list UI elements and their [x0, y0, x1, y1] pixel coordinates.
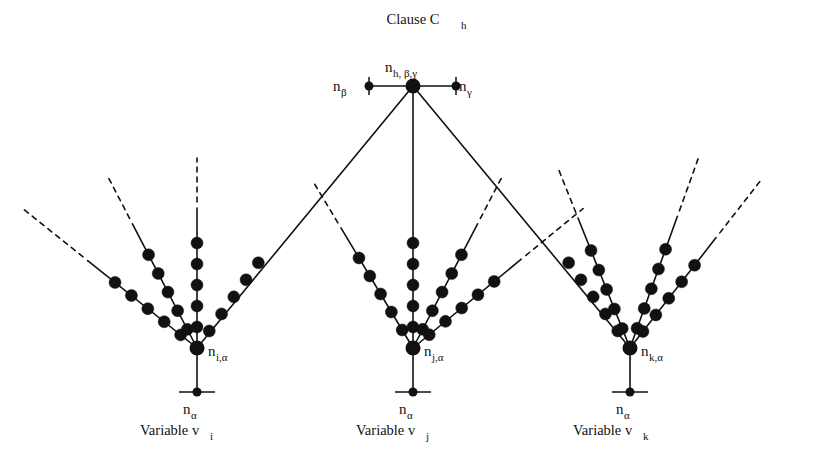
n-beta-label-subscript: β: [341, 86, 347, 98]
vj-ray-outer-right-bead: [439, 315, 451, 327]
vj-root-label: n: [424, 343, 432, 359]
vj-ray-outer-left-bead: [396, 324, 408, 336]
clause-node-label-subscript: h, β,γ: [393, 67, 417, 79]
edges-layer: [24, 77, 761, 392]
vk-base-node: [626, 388, 635, 397]
vi-ray-inner-left-bead: [143, 249, 155, 261]
vk-ray-inner-left-bead: [608, 303, 620, 315]
vk-caption: Variable v: [573, 422, 633, 438]
vk-ray-outer-right-bead: [689, 259, 701, 271]
vj-ray-outer-left-bead: [375, 288, 387, 300]
vk-ray-to-clause-bead: [563, 257, 575, 269]
vi-base-node: [193, 388, 202, 397]
vk-ray-to-clause-bead: [575, 274, 587, 286]
vk-ray-inner-right-bead: [645, 283, 657, 295]
labels-layer: Clause C h ni,αnαVariable vinj,αnαVariab…: [140, 11, 663, 442]
nodes-layer: [109, 79, 701, 397]
vi-ray-vertical-bead: [191, 258, 203, 270]
vi-ray-outer-left-bead: [109, 276, 121, 288]
vk-base-label: n: [616, 401, 624, 417]
vi-ray-to-clause-bead: [240, 274, 252, 286]
vi-caption-subscript: i: [210, 430, 213, 442]
vj-ray-outer-right-bead: [472, 289, 484, 301]
vj-ray-vertical-bead: [407, 258, 419, 270]
vi-ray-vertical-bead: [191, 300, 203, 312]
vi-ray-inner-left-bead: [162, 286, 174, 298]
vk-root-node: [623, 341, 638, 356]
vi-caption: Variable v: [140, 422, 200, 438]
clause-node: [406, 79, 421, 94]
vj-base-node: [409, 388, 418, 397]
vi-ray-inner-left-bead: [152, 267, 164, 279]
vk-root-label-subscript: k,α: [649, 351, 663, 363]
vi-ray-vertical-bead: [191, 321, 203, 333]
vj-base-label-subscript: α: [407, 409, 413, 421]
clause-variable-gadget-diagram: Clause C h ni,αnαVariable vinj,αnαVariab…: [0, 0, 818, 464]
vi-ray-to-clause-bead: [216, 308, 228, 320]
vk-ray-to-clause-edge: [413, 86, 630, 348]
vi-ray-vertical-bead: [191, 279, 203, 291]
vi-ray-to-clause-bead: [203, 325, 215, 337]
vi-root-node: [190, 341, 205, 356]
figure-title-subscript: h: [461, 19, 467, 31]
vk-ray-outer-right-bead: [650, 309, 662, 321]
vk-ray-inner-right-bead: [660, 243, 672, 255]
vk-ray-inner-right-dashed-continuation: [679, 158, 698, 211]
vi-base-label-subscript: α: [191, 409, 197, 421]
vj-ray-inner-right-bead: [436, 286, 448, 298]
vj-ray-outer-right-bead: [456, 302, 468, 314]
vk-ray-outer-right-bead: [637, 325, 649, 337]
vj-caption: Variable v: [356, 422, 416, 438]
vj-ray-vertical-bead: [407, 300, 419, 312]
vk-base-label-subscript: α: [624, 409, 630, 421]
vj-ray-outer-right-bead: [423, 329, 435, 341]
vj-root-node: [406, 341, 421, 356]
vi-ray-to-clause-bead: [228, 291, 240, 303]
n-beta-label: n: [333, 78, 341, 94]
figure-title: Clause C: [387, 11, 440, 27]
vi-base-label: n: [183, 401, 191, 417]
vj-ray-vertical-bead: [407, 279, 419, 291]
vi-root-label-subscript: i,α: [216, 351, 228, 363]
vj-ray-inner-right-bead: [455, 249, 467, 261]
vk-ray-inner-right-bead: [652, 263, 664, 275]
vj-caption-subscript: j: [425, 430, 429, 442]
vk-ray-inner-left-bead: [585, 245, 597, 257]
vi-ray-outer-left-bead: [158, 316, 170, 328]
vk-ray-inner-right-bead: [638, 302, 650, 314]
vj-base-label: n: [399, 401, 407, 417]
vi-ray-inner-left-bead: [172, 305, 184, 317]
vj-ray-outer-left-bead: [385, 306, 397, 318]
vk-ray-inner-left-bead: [601, 284, 613, 296]
vj-ray-inner-right-bead: [446, 267, 458, 279]
vk-ray-to-clause-bead: [587, 291, 599, 303]
clause-node-label: n: [385, 59, 393, 75]
vj-ray-vertical-bead: [407, 237, 419, 249]
vi-root-label: n: [208, 343, 216, 359]
figure-root: Clause C h ni,αnαVariable vinj,αnαVariab…: [0, 0, 818, 464]
vk-ray-outer-right-dashed-continuation: [720, 181, 761, 233]
vj-ray-outer-left-dashed-continuation: [313, 181, 338, 223]
vj-ray-inner-right-bead: [426, 305, 438, 317]
vi-ray-to-clause-bead: [252, 257, 264, 269]
n-gamma-label: n: [459, 78, 467, 94]
vk-ray-inner-left-dashed-continuation: [558, 167, 576, 212]
vk-ray-outer-right-bead: [663, 292, 675, 304]
vi-ray-outer-left-bead: [125, 290, 137, 302]
vk-caption-subscript: k: [643, 430, 649, 442]
n-gamma-label-subscript: γ: [466, 86, 472, 98]
vi-ray-outer-left-dashed-continuation: [24, 209, 83, 256]
n-beta-node: [365, 82, 374, 91]
vj-ray-outer-left-bead: [364, 270, 376, 282]
vi-ray-inner-left-dashed-continuation: [107, 175, 130, 218]
vj-ray-outer-right-bead: [488, 275, 500, 287]
vi-ray-vertical-bead: [191, 237, 203, 249]
vi-ray-to-clause-edge: [197, 86, 413, 348]
vk-root-label: n: [641, 343, 649, 359]
vj-ray-outer-left-bead: [353, 252, 365, 264]
vj-root-label-subscript: j,α: [431, 351, 444, 363]
vi-ray-outer-left-bead: [142, 303, 154, 315]
vk-ray-outer-right-bead: [676, 276, 688, 288]
vk-ray-inner-left-bead: [593, 264, 605, 276]
vk-ray-inner-left-bead: [616, 323, 628, 335]
